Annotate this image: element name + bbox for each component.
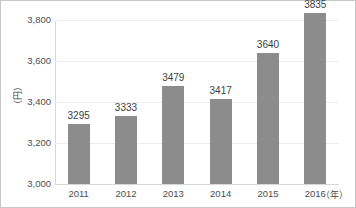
- x-axis-tick-label: 2015: [257, 188, 278, 199]
- bar-value-label: 3295: [68, 111, 90, 121]
- bar-series: 329533333479341736403835: [55, 20, 339, 184]
- bar-value-label: 3333: [115, 103, 137, 113]
- bar[interactable]: [115, 116, 137, 184]
- y-axis-tick-label: 3,600: [3, 56, 51, 66]
- y-axis-tick-label: 3,000: [3, 179, 51, 189]
- bar-slot: 3333: [102, 20, 149, 184]
- x-axis-tick-label: 2014: [210, 188, 231, 199]
- bar-value-label: 3479: [162, 73, 184, 83]
- x-axis-unit-label: （年）: [321, 188, 348, 201]
- bar-value-label: 3835: [304, 0, 326, 10]
- bar[interactable]: [68, 124, 90, 184]
- bar[interactable]: [304, 13, 326, 184]
- plot-area: 329533333479341736403835: [55, 20, 339, 184]
- bar[interactable]: [257, 53, 279, 184]
- gridline: [55, 184, 339, 185]
- bar[interactable]: [162, 86, 184, 184]
- x-axis-tick-label: 2013: [163, 188, 184, 199]
- bar-slot: 3295: [55, 20, 102, 184]
- y-axis-unit-label: （円）: [11, 76, 24, 116]
- bar[interactable]: [210, 99, 232, 184]
- x-axis-tick-label: 2011: [68, 188, 88, 199]
- bar-slot: 3417: [197, 20, 244, 184]
- y-axis-tick-label: 3,800: [3, 15, 51, 25]
- y-axis-tick-label: 3,400: [3, 97, 51, 107]
- bar-slot: 3640: [244, 20, 291, 184]
- bar-slot: 3479: [150, 20, 197, 184]
- bar-value-label: 3417: [210, 86, 232, 96]
- bar-value-label: 3640: [257, 40, 279, 50]
- y-axis-tick-label: 3,200: [3, 138, 51, 148]
- bar-slot: 3835: [292, 20, 339, 184]
- bar-chart: （円） 3,8003,6003,4003,2003,000 3295333334…: [0, 0, 356, 208]
- x-axis-tick-label: 2012: [115, 188, 136, 199]
